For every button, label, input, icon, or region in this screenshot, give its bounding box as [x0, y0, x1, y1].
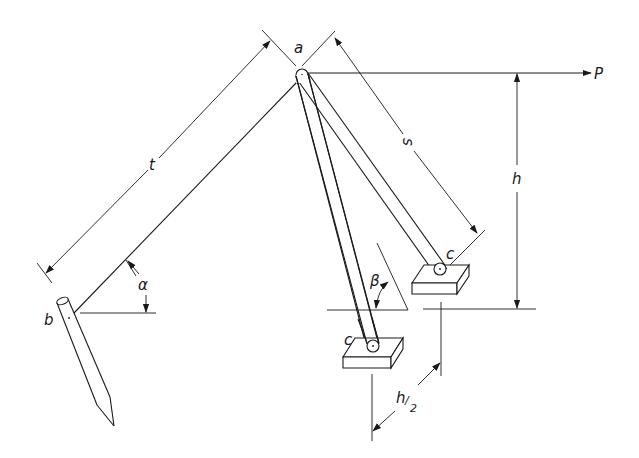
- label-footing-c-right: c: [446, 245, 455, 263]
- dimension-s: [302, 31, 485, 268]
- tie-line: [74, 82, 297, 313]
- label-footing-c-left: c: [344, 331, 353, 349]
- anchorage-diagram: a P t s h b α β c c h / 2: [0, 0, 639, 458]
- label-half-h-den: 2: [410, 402, 417, 415]
- label-force-p: P: [594, 65, 604, 83]
- footing-block-right: [412, 263, 469, 294]
- dimension-h-half: [372, 302, 441, 441]
- label-leg-s: s: [399, 138, 417, 146]
- label-angle-alpha: α: [138, 276, 148, 294]
- label-height-h: h: [512, 170, 522, 188]
- label-tie-t: t: [149, 156, 156, 174]
- label-apex-a: a: [294, 39, 303, 57]
- stake-b: [56, 296, 114, 426]
- label-angle-beta: β: [369, 272, 380, 290]
- dimension-t: [37, 30, 296, 283]
- label-stake-b: b: [44, 311, 54, 329]
- diagram-canvas: a P t s h b α β c c h / 2: [0, 0, 639, 458]
